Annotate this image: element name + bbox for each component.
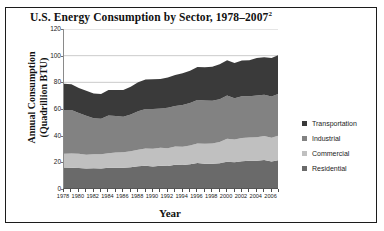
y-tick-label: 80 [35,78,61,85]
x-tick-mark [189,189,190,192]
x-tick-mark [226,189,227,192]
x-tick-mark [107,189,108,192]
chart-title-text: U.S. Energy Consumption by Sector, 1978–… [30,11,268,23]
x-tick-label: 2006 [262,193,280,199]
x-tick-mark [93,189,94,192]
x-tick-mark [100,189,101,192]
x-tick-mark [130,189,131,192]
x-axis-title: Year [62,207,278,219]
legend-item-label: Transportation [312,120,357,127]
y-tick-label: 100 [35,52,61,59]
y-tick-label: 40 [35,132,61,139]
legend-swatch-icon [302,166,307,171]
x-tick-mark [204,189,205,192]
x-tick-mark [63,189,64,192]
x-tick-mark [122,189,123,192]
legend-swatch-icon [302,121,307,126]
y-axis-tick-labels: 020406080100120 [31,29,61,189]
x-tick-mark [278,189,279,192]
x-tick-mark [271,189,272,192]
y-tick-label: 120 [35,25,61,32]
x-tick-mark [263,189,264,192]
legend-swatch-icon [302,151,307,156]
chart-figure: U.S. Energy Consumption by Sector, 1978–… [5,7,377,223]
stacked-area-plot [64,29,278,189]
y-tick-label: 20 [35,158,61,165]
legend-item[interactable]: Transportation [302,116,382,131]
x-tick-mark [78,189,79,192]
chart-title-superscript: 2 [268,10,272,18]
legend-item-label: Industrial [312,135,340,142]
plot-area [63,29,278,189]
chart-legend: TransportationIndustrialCommercialReside… [302,116,382,176]
x-tick-mark [115,189,116,192]
x-tick-mark [256,189,257,192]
legend-item[interactable]: Industrial [302,131,382,146]
legend-item[interactable]: Commercial [302,146,382,161]
x-tick-mark [241,189,242,192]
x-tick-mark [152,189,153,192]
legend-item-label: Residential [312,165,347,172]
y-tick-label: 0 [35,185,61,192]
x-tick-mark [196,189,197,192]
x-tick-mark [145,189,146,192]
x-tick-mark [70,189,71,192]
x-tick-mark [159,189,160,192]
x-tick-mark [234,189,235,192]
legend-swatch-icon [302,136,307,141]
chart-title: U.S. Energy Consumption by Sector, 1978–… [6,10,296,23]
y-tick-label: 60 [35,105,61,112]
legend-item[interactable]: Residential [302,161,382,176]
x-tick-mark [137,189,138,192]
x-tick-mark [167,189,168,192]
x-axis-tick-labels: 1978198019821984198619881990199219941996… [63,189,279,207]
x-tick-mark [182,189,183,192]
x-tick-mark [85,189,86,192]
legend-item-label: Commercial [312,150,349,157]
x-tick-mark [248,189,249,192]
x-tick-mark [211,189,212,192]
x-tick-mark [174,189,175,192]
x-tick-mark [219,189,220,192]
